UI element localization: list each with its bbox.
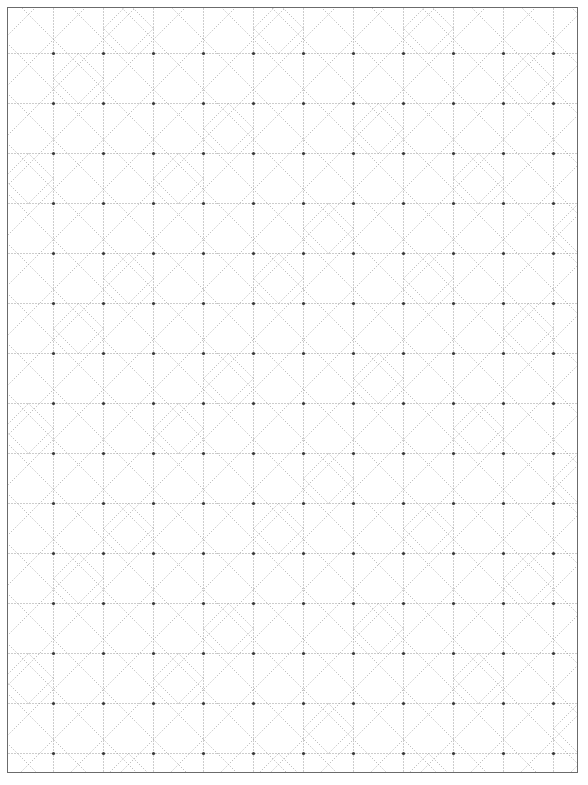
dotted-grid-pattern xyxy=(8,8,577,772)
page-title: Dotted Grid Pattern Sheet xyxy=(0,0,1,1)
pattern-page: Dotted Grid Pattern Sheet Square dotted … xyxy=(0,0,588,785)
sheet-border xyxy=(7,7,578,773)
page-description: Square dotted grid paper with diagonal c… xyxy=(0,0,1,1)
